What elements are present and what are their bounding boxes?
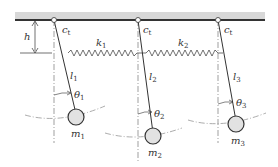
l1-label: l1 — [70, 70, 78, 83]
pivot-3 — [216, 18, 221, 23]
m3-label: m3 — [231, 135, 245, 148]
mass-2 — [145, 128, 161, 144]
mass-3 — [228, 116, 244, 132]
coupled-pendulum-diagram: h ct ct ct k1 k2 l1 l2 l3 θ1 θ2 θ3 m1 m2… — [0, 0, 278, 167]
theta3-label: θ3 — [236, 97, 247, 110]
h-label: h — [24, 31, 30, 42]
k1-label: k1 — [96, 37, 107, 50]
spring-k2 — [141, 50, 223, 56]
c2-label: ct — [143, 24, 152, 37]
pivot-2 — [136, 18, 141, 23]
k2-label: k2 — [178, 37, 189, 50]
l3-label: l3 — [233, 71, 241, 84]
m2-label: m2 — [148, 147, 162, 160]
pivot-1 — [52, 18, 57, 23]
theta2-label: θ2 — [154, 108, 165, 121]
mass-1 — [68, 109, 84, 125]
spring-k1 — [68, 50, 141, 56]
theta1-label: θ1 — [74, 89, 85, 102]
c1-label: ct — [62, 24, 71, 37]
l2-label: l2 — [149, 71, 157, 84]
m1-label: m1 — [71, 128, 85, 141]
c3-label: ct — [224, 24, 233, 37]
